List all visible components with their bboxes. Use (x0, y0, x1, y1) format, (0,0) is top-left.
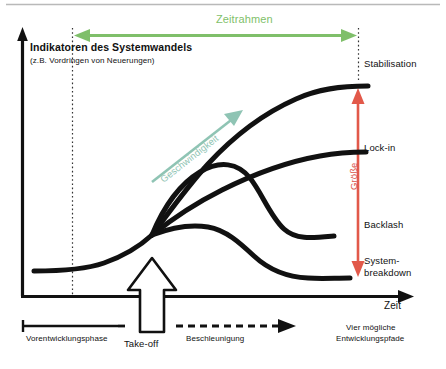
y-axis-label-primary: Indikatoren des Systemwandels (30, 41, 192, 53)
curve-trunk (34, 235, 152, 271)
y-axis (17, 27, 28, 296)
paths-caption-line2: Entwicklungspfade (336, 334, 404, 343)
x-axis (21, 290, 414, 303)
x-axis-label: Zeit (384, 300, 401, 312)
timeframe-label: Zeitrahmen (216, 13, 273, 26)
development-curves (34, 86, 368, 278)
curve-system-breakdown (152, 226, 350, 278)
endpoint-label-stabilisation: Stabilisation (364, 58, 417, 69)
endpoint-label-system-breakdown-line1: System- (364, 255, 400, 266)
endpoint-label-system-breakdown-line2: breakdown (364, 267, 411, 278)
phase-label-acceleration: Beschleunigung (186, 334, 244, 343)
diagram-canvas: Indikatoren des Systemwandels (z.B. Vord… (0, 0, 446, 369)
paths-caption-line1: Vier mögliche (346, 323, 396, 332)
phase-label-predevelopment: Vorentwicklungsphase (26, 334, 108, 343)
endpoint-label-lock-in: Lock-in (364, 142, 395, 153)
size-label: Größe (348, 163, 359, 190)
phase-label-takeoff: Take-off (124, 338, 158, 349)
endpoint-label-backlash: Backlash (364, 219, 403, 230)
y-axis-label-secondary: (z.B. Vordringen von Neuerungen) (30, 56, 155, 65)
